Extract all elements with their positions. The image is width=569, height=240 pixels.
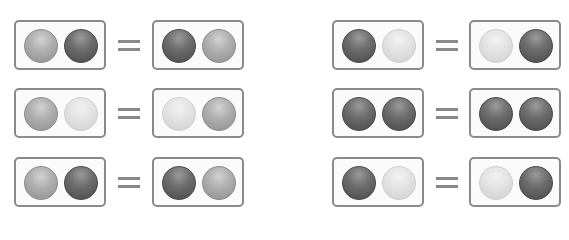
marble-box-right	[469, 157, 561, 207]
medium-marble-icon	[24, 97, 58, 131]
medium-marble-icon	[24, 166, 58, 200]
marble-box-right	[152, 88, 244, 138]
equals-sign-icon	[436, 177, 458, 189]
light-marble-icon	[479, 29, 513, 63]
dark-marble-icon	[382, 97, 416, 131]
marble-box-right	[469, 20, 561, 70]
light-marble-icon	[382, 166, 416, 200]
light-marble-icon	[382, 29, 416, 63]
marble-box-right	[152, 157, 244, 207]
dark-marble-icon	[162, 29, 196, 63]
marble-box-left	[14, 88, 106, 138]
light-marble-icon	[64, 97, 98, 131]
dark-marble-icon	[162, 166, 196, 200]
light-marble-icon	[479, 166, 513, 200]
dark-marble-icon	[342, 166, 376, 200]
light-marble-icon	[162, 97, 196, 131]
medium-marble-icon	[202, 166, 236, 200]
marble-box-left	[332, 20, 424, 70]
dark-marble-icon	[519, 29, 553, 63]
medium-marble-icon	[24, 29, 58, 63]
equals-sign-icon	[118, 108, 140, 120]
marble-box-right	[152, 20, 244, 70]
equals-sign-icon	[436, 40, 458, 52]
dark-marble-icon	[64, 29, 98, 63]
marble-box-left	[14, 20, 106, 70]
dark-marble-icon	[519, 97, 553, 131]
dark-marble-icon	[64, 166, 98, 200]
medium-marble-icon	[202, 29, 236, 63]
medium-marble-icon	[202, 97, 236, 131]
marble-box-left	[332, 88, 424, 138]
dark-marble-icon	[519, 166, 553, 200]
marble-box-left	[14, 157, 106, 207]
marble-box-right	[469, 88, 561, 138]
equals-sign-icon	[118, 177, 140, 189]
equals-sign-icon	[118, 40, 140, 52]
dark-marble-icon	[342, 29, 376, 63]
equals-sign-icon	[436, 108, 458, 120]
dark-marble-icon	[342, 97, 376, 131]
dark-marble-icon	[479, 97, 513, 131]
marble-box-left	[332, 157, 424, 207]
